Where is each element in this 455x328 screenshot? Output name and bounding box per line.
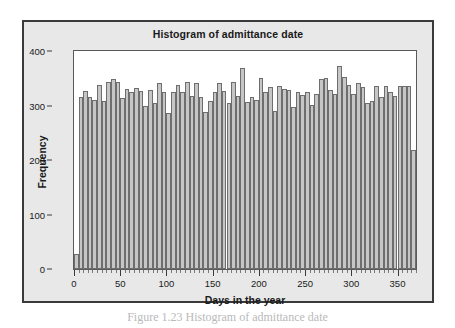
y-tick-mark	[47, 51, 52, 52]
x-tick-label: 100	[158, 278, 174, 289]
y-tick-label: 300	[29, 100, 45, 111]
x-tick-minor	[282, 270, 283, 273]
x-tick-minor	[291, 270, 292, 273]
x-tick-minor	[314, 270, 315, 273]
x-tick-label: 0	[71, 278, 76, 289]
x-tick-minor	[231, 270, 232, 273]
x-tick-minor	[134, 270, 135, 273]
figure-caption: Figure 1.23 Histogram of admittance date	[0, 310, 455, 325]
x-tick-minor	[129, 270, 130, 273]
x-tick-minor	[324, 270, 325, 273]
x-tick-minor	[190, 270, 191, 273]
x-tick-minor	[208, 270, 209, 273]
x-tick-minor	[88, 270, 89, 273]
x-tick-minor	[273, 270, 274, 273]
figure-box: Histogram of admittance date Frequency 0…	[22, 20, 434, 303]
x-axis-title: Days in the year	[73, 294, 417, 306]
x-tick-minor	[227, 270, 228, 273]
x-tick-minor	[370, 270, 371, 273]
x-tick-minor	[139, 270, 140, 273]
x-tick-minor	[328, 270, 329, 273]
x-tick-minor	[240, 270, 241, 273]
x-tick-minor	[287, 270, 288, 273]
x-tick-minor	[319, 270, 320, 273]
x-tick-label: 350	[390, 278, 406, 289]
x-tick-minor	[194, 270, 195, 273]
x-tick-minor	[176, 270, 177, 273]
x-tick-minor	[388, 270, 389, 273]
y-tick-label: 100	[29, 209, 45, 220]
x-tick-mark	[213, 270, 214, 276]
x-tick-minor	[374, 270, 375, 273]
x-tick-minor	[162, 270, 163, 273]
x-tick-mark	[120, 270, 121, 276]
x-tick-minor	[83, 270, 84, 273]
y-tick-mark	[47, 105, 52, 106]
x-tick-label: 150	[205, 278, 221, 289]
x-tick-minor	[171, 270, 172, 273]
x-tick-minor	[411, 270, 412, 273]
x-tick-minor	[393, 270, 394, 273]
x-tick-minor	[277, 270, 278, 273]
x-tick-minor	[125, 270, 126, 273]
x-tick-minor	[300, 270, 301, 273]
x-tick-label: 300	[343, 278, 359, 289]
histogram-plot-area	[74, 51, 416, 269]
x-tick-minor	[180, 270, 181, 273]
x-tick-minor	[143, 270, 144, 273]
x-tick-minor	[337, 270, 338, 273]
x-tick-minor	[79, 270, 80, 273]
y-tick-mark	[47, 269, 52, 270]
x-tick-mark	[259, 270, 260, 276]
y-tick-label: 200	[29, 155, 45, 166]
y-axis: Frequency 0100200300400	[24, 22, 73, 301]
x-tick-minor	[245, 270, 246, 273]
x-tick-minor	[111, 270, 112, 273]
x-tick-mark	[74, 270, 75, 276]
x-tick-minor	[402, 270, 403, 273]
x-tick-mark	[305, 270, 306, 276]
histogram-bar	[411, 150, 416, 269]
x-tick-minor	[365, 270, 366, 273]
y-tick-label: 0	[40, 264, 45, 275]
x-tick-minor	[222, 270, 223, 273]
x-tick-minor	[203, 270, 204, 273]
x-tick-minor	[97, 270, 98, 273]
x-tick-mark	[166, 270, 167, 276]
x-tick-minor	[333, 270, 334, 273]
x-tick-minor	[296, 270, 297, 273]
x-tick-minor	[92, 270, 93, 273]
x-tick-minor	[116, 270, 117, 273]
x-tick-minor	[416, 270, 417, 273]
x-tick-minor	[157, 270, 158, 273]
y-tick-label: 400	[29, 46, 45, 57]
x-tick-minor	[148, 270, 149, 273]
x-tick-minor	[217, 270, 218, 273]
x-tick-minor	[361, 270, 362, 273]
x-tick-minor	[356, 270, 357, 273]
x-tick-mark	[398, 270, 399, 276]
x-tick-minor	[254, 270, 255, 273]
plot-frame	[73, 50, 417, 270]
x-tick-minor	[347, 270, 348, 273]
x-tick-minor	[310, 270, 311, 273]
x-tick-label: 200	[251, 278, 267, 289]
x-tick-minor	[185, 270, 186, 273]
x-tick-minor	[407, 270, 408, 273]
x-tick-label: 250	[297, 278, 313, 289]
x-tick-minor	[342, 270, 343, 273]
y-tick-mark	[47, 160, 52, 161]
y-tick-mark	[47, 214, 52, 215]
x-tick-label: 50	[115, 278, 126, 289]
x-tick-minor	[199, 270, 200, 273]
x-tick-minor	[102, 270, 103, 273]
x-tick-minor	[236, 270, 237, 273]
x-tick-minor	[268, 270, 269, 273]
chart-title: Histogram of admittance date	[24, 28, 432, 40]
x-tick-minor	[153, 270, 154, 273]
x-tick-minor	[263, 270, 264, 273]
x-tick-minor	[379, 270, 380, 273]
x-tick-minor	[384, 270, 385, 273]
x-tick-minor	[250, 270, 251, 273]
x-tick-mark	[351, 270, 352, 276]
